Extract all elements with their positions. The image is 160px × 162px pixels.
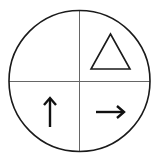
- quadrant-bottom-right: [96, 106, 124, 118]
- diagram-canvas: [0, 0, 160, 162]
- quadrant-bottom-left: [44, 98, 56, 127]
- quadrant-top-right: [91, 34, 130, 69]
- triangle-icon: [91, 34, 130, 69]
- quadrant-diagram: [0, 0, 160, 162]
- arrow-up-icon: [44, 98, 56, 127]
- arrow-right-icon: [96, 106, 124, 118]
